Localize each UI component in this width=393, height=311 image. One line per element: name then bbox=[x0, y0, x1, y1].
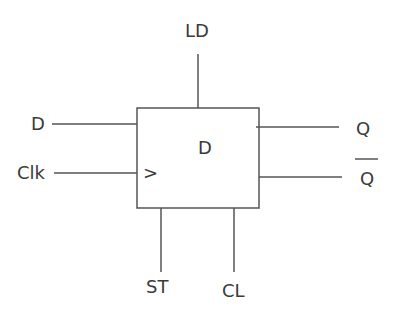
st-label: ST bbox=[146, 278, 168, 296]
block-label: D bbox=[198, 139, 212, 157]
ld-label: LD bbox=[185, 22, 209, 40]
d-input-label: D bbox=[31, 115, 45, 133]
q-output-label: Q bbox=[356, 120, 370, 138]
flip-flop-diagram bbox=[0, 0, 393, 311]
clock-symbol: > bbox=[143, 164, 158, 182]
clk-input-label: Clk bbox=[17, 164, 45, 182]
flip-flop-box bbox=[137, 108, 259, 208]
cl-label: CL bbox=[222, 282, 245, 300]
qbar-output-label: Q bbox=[360, 170, 374, 188]
